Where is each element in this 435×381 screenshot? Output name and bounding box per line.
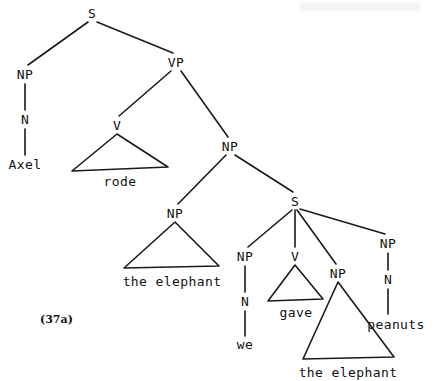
tree-node-vp: VP (168, 55, 184, 70)
constituent-triangle (72, 134, 168, 171)
tree-edge (119, 71, 171, 116)
figure-number-label: (37a) (40, 313, 73, 326)
tree-node-np-peanuts: NP (380, 236, 396, 251)
tree-node-np-we: NP (237, 249, 253, 264)
tree-node-s-root: S (88, 6, 96, 21)
tree-node-np-elephant2: NP (330, 266, 346, 281)
tree-leaf-leaf-peanuts: peanuts (367, 317, 425, 332)
tree-edge (28, 22, 88, 65)
tree-edge (178, 155, 226, 204)
tree-triangles (72, 134, 394, 359)
tree-node-n-subj: N (21, 112, 29, 127)
tree-leaf-leaf-we: we (237, 337, 253, 352)
tree-node-s-rel: S (291, 194, 299, 209)
tree-edge (97, 22, 173, 53)
tree-node-np-obj: NP (222, 139, 238, 154)
syntax-tree-figure: SNPNVPVNPNPSNPNVNPNPNAxelrodethe elephan… (0, 0, 435, 381)
tree-node-np-head: NP (167, 206, 183, 221)
tree-node-v-rode: V (113, 118, 121, 133)
tree-node-v-gave: V (291, 249, 299, 264)
tree-leaf-leaf-elephant2: the elephant (299, 365, 398, 380)
tree-leaf-leaf-rode: rode (104, 174, 137, 189)
tree-node-np-subj: NP (17, 67, 33, 82)
constituent-triangle (268, 265, 323, 301)
tree-leaf-leaf-axel: Axel (9, 157, 42, 172)
tree-node-n-we: N (241, 294, 249, 309)
constituent-triangle (124, 222, 219, 268)
tree-leaf-leaf-gave: gave (280, 305, 313, 320)
tree-edge (300, 209, 385, 234)
tree-edge (235, 155, 293, 192)
tree-edges (25, 22, 388, 336)
tree-edge (181, 71, 228, 137)
tree-leaf-leaf-elephant1: the elephant (123, 274, 222, 289)
tree-node-n-peanuts: N (384, 272, 392, 287)
tree-edge (248, 210, 292, 247)
